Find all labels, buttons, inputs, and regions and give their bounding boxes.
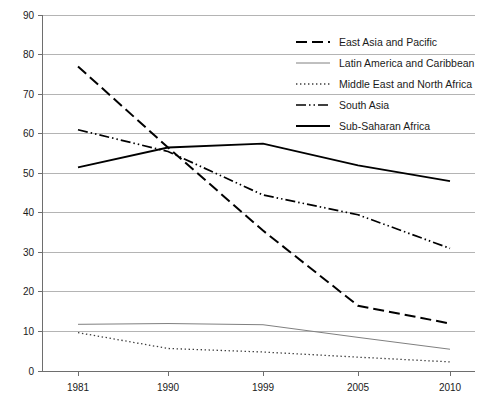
y-axis-label-70: 70 [23,89,35,100]
legend-label-south-asia: South Asia [339,99,389,111]
chart-canvas: 0102030405060708090 19811990199920052010… [0,0,494,412]
y-axis-label-60: 60 [23,128,35,139]
x-axis-label-1981: 1981 [67,382,90,393]
chart-legend: East Asia and PacificLatin America and C… [296,36,475,132]
legend-label-sub-saharan-africa: Sub-Saharan Africa [339,120,430,132]
x-axis-tick-labels: 19811990199920052010 [67,382,462,393]
y-axis-label-40: 40 [23,207,35,218]
y-axis-label-10: 10 [23,326,35,337]
y-axis-label-80: 80 [23,49,35,60]
legend-label-middle-east-and-north-africa: Middle East and North Africa [339,78,472,90]
y-axis-tick-labels: 0102030405060708090 [23,10,35,377]
legend-label-latin-america-and-caribbean: Latin America and Caribbean [339,57,475,69]
series-line-sub-saharan-africa [78,144,450,182]
data-series-group [78,66,450,361]
y-axis-label-0: 0 [28,366,34,377]
y-axis-label-20: 20 [23,286,35,297]
legend-label-east-asia-and-pacific: East Asia and Pacific [339,36,437,48]
series-line-latin-america-and-caribbean [78,324,450,350]
series-line-middle-east-and-north-africa [78,333,450,362]
x-axis-label-2005: 2005 [347,382,370,393]
y-axis-label-50: 50 [23,168,35,179]
y-axis-label-30: 30 [23,247,35,258]
x-axis-label-2010: 2010 [439,382,462,393]
x-axis-label-1999: 1999 [252,382,275,393]
y-axis-label-90: 90 [23,10,35,21]
x-axis-label-1990: 1990 [157,382,180,393]
x-tick-marks [78,371,450,376]
y-tick-marks [38,15,42,371]
line-chart: 0102030405060708090 19811990199920052010… [0,0,494,412]
